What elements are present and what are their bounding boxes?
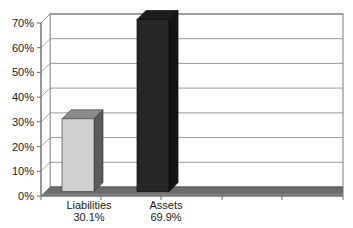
y-tick-label: 30% — [12, 116, 34, 128]
category-label-liabilities: Liabilities — [66, 199, 112, 211]
bar-assets[interactable] — [137, 11, 178, 192]
category-label-assets: Assets — [149, 199, 183, 211]
bar-chart: 70% 60% 50% 40% 30% 20% 10% 0% — [0, 0, 353, 228]
bar-assets-side — [169, 11, 178, 192]
y-tick-label: 70% — [12, 17, 34, 29]
bar-liabilities[interactable] — [62, 110, 103, 192]
y-tick-label: 10% — [12, 165, 34, 177]
y-tick-label: 50% — [12, 66, 34, 78]
x-axis-labels: Liabilities 30.1% Assets 69.9% — [66, 199, 183, 223]
category-value-assets: 69.9% — [150, 211, 181, 223]
y-tick-label: 40% — [12, 91, 34, 103]
y-tick-label: 60% — [12, 42, 34, 54]
chart-canvas: 70% 60% 50% 40% 30% 20% 10% 0% — [0, 0, 353, 228]
bar-assets-front — [137, 20, 169, 192]
left-depth-wall — [41, 14, 50, 196]
y-tick-label: 0% — [18, 190, 34, 202]
y-axis-labels: 70% 60% 50% 40% 30% 20% 10% 0% — [12, 17, 34, 202]
bar-liabilities-front — [62, 119, 94, 192]
y-tick-label: 20% — [12, 141, 34, 153]
category-value-liabilities: 30.1% — [73, 211, 104, 223]
bar-liabilities-side — [94, 110, 103, 192]
